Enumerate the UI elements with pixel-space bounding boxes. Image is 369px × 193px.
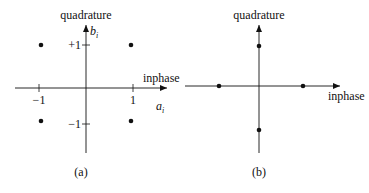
symbol-point xyxy=(39,43,44,48)
symbol-point xyxy=(257,128,262,133)
x-axis-label: inphase xyxy=(328,89,365,103)
y-tick-label-neg1: −1 xyxy=(68,117,81,131)
constellation-diagrams: quadrature bi inphase ai −1 1 +1 −1 (a) … xyxy=(0,0,369,193)
x-tick-label-neg1: −1 xyxy=(33,93,46,107)
x-tick-label-pos1: 1 xyxy=(130,93,136,107)
y-symbol: bi xyxy=(90,24,98,40)
symbol-point xyxy=(129,119,134,124)
caption-b: (b) xyxy=(252,165,266,179)
y-axis-label: quadrature xyxy=(233,8,284,22)
symbol-point xyxy=(39,119,44,124)
y-axis-label: quadrature xyxy=(60,8,111,22)
panel-a: quadrature bi inphase ai −1 1 +1 −1 (a) xyxy=(15,8,180,179)
symbol-point xyxy=(217,84,222,89)
panel-b: quadrature inphase (b) xyxy=(185,8,365,179)
symbol-point xyxy=(301,84,306,89)
symbol-point xyxy=(257,44,262,49)
symbol-point xyxy=(129,43,134,48)
caption-a: (a) xyxy=(74,165,87,179)
x-axis-label: inphase xyxy=(143,71,180,85)
x-symbol: ai xyxy=(156,99,164,115)
y-tick-label-pos1: +1 xyxy=(68,38,81,52)
